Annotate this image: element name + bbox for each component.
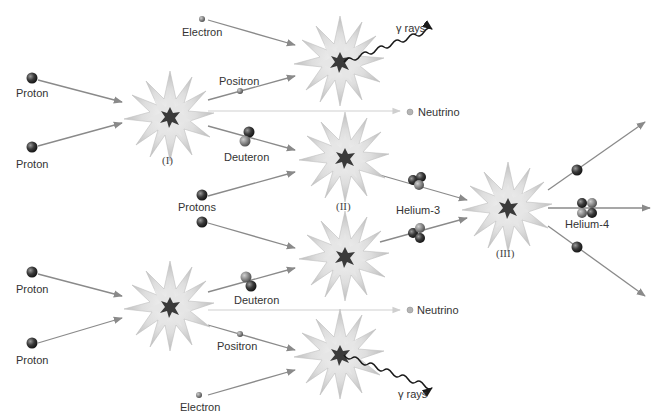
label-proton: Proton: [16, 354, 48, 366]
electron-particle: [196, 392, 202, 398]
proton-particle: [27, 338, 38, 349]
arrow-electron-bottom: [208, 370, 295, 395]
label-deuteron-bottom: Deuteron: [234, 294, 279, 306]
proton-particle: [572, 242, 583, 253]
label-neutrino-bottom: Neutrino: [417, 304, 459, 316]
label-stage-2: (II): [336, 200, 351, 213]
label-deuteron-top: Deuteron: [224, 151, 269, 163]
proton-particle: [27, 267, 38, 278]
label-positron-top: Positron: [219, 75, 259, 87]
label-stage-3: (III): [496, 247, 515, 260]
helium3-particle-bottom: [408, 223, 425, 243]
label-helium-3: Helium-3: [396, 204, 440, 216]
deuteron-particle-top: [240, 127, 255, 147]
arrow-protons-bottom: [208, 223, 295, 248]
reaction-burst-gamma-top: [294, 16, 384, 106]
reaction-burst-stage1-bottom: [124, 261, 214, 351]
arrow-proton-tl2-to-stage1b: [38, 274, 122, 296]
label-stage-1: (I): [162, 154, 173, 167]
label-proton: Proton: [16, 283, 48, 295]
reaction-burst-stage3: [462, 162, 552, 252]
arrow-protons-top: [208, 172, 295, 196]
proton-particle: [572, 165, 583, 176]
label-protons: Protons: [178, 201, 216, 213]
electron-particle: [199, 16, 205, 22]
label-gamma-rays-bottom: γ rays: [398, 388, 428, 400]
reaction-burst-gamma-bottom: [294, 309, 384, 399]
positron-particle: [237, 331, 243, 337]
label-proton: Proton: [16, 87, 48, 99]
positron-particle: [237, 88, 243, 94]
label-proton: Proton: [16, 158, 48, 170]
deuteron-particle-bottom: [241, 272, 257, 292]
arrow-proton-bl-to-stage1: [38, 123, 122, 146]
label-gamma-rays-top: γ rays: [396, 22, 426, 34]
reaction-burst-stage2-top: [299, 112, 389, 202]
proton-particle: [197, 190, 208, 201]
arrow-proton-out-up: [548, 122, 645, 190]
helium3-particle-top: [408, 172, 426, 190]
arrow-proton-tl-to-stage1: [38, 80, 122, 102]
label-neutrino-top: Neutrino: [418, 106, 460, 118]
neutrino-particle: [407, 307, 413, 313]
reaction-burst-stage1-top: [124, 71, 214, 161]
arrow-proton-out-down: [548, 226, 645, 296]
proton-proton-chain-diagram: Proton Proton Proton Proton Electron Ele…: [0, 0, 664, 420]
proton-particle: [197, 217, 208, 228]
label-positron-bottom: Positron: [217, 340, 257, 352]
label-electron-bottom: Electron: [180, 401, 220, 413]
neutrino-particle: [407, 109, 413, 115]
reaction-burst-stage2-bottom: [299, 211, 389, 301]
label-electron-top: Electron: [182, 26, 222, 38]
proton-particle: [27, 142, 38, 153]
arrow-proton-bl2-to-stage1b: [38, 318, 122, 343]
proton-particle: [27, 73, 38, 84]
label-helium-4: Helium-4: [565, 218, 609, 230]
